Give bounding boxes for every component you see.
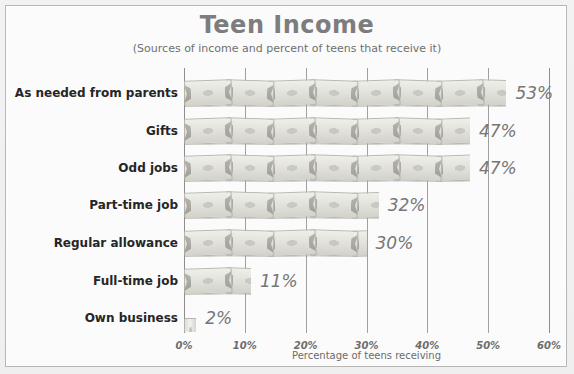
bar [184, 191, 379, 219]
dollar-bill-icon [268, 191, 317, 219]
bar [184, 79, 506, 107]
x-axis-title: Percentage of teens receiving [184, 350, 549, 361]
dollar-bill-icon [226, 79, 275, 106]
value-label: 2% [205, 308, 232, 328]
dollar-bill-icon [184, 117, 232, 145]
dollar-bill-icon [184, 318, 196, 332]
dollar-bill-icon [352, 117, 401, 145]
category-label: Regular allowance [0, 236, 178, 250]
value-label: 11% [260, 271, 298, 291]
dollar-bill-icon [184, 267, 232, 295]
bar [184, 267, 251, 295]
value-label: 32% [388, 195, 426, 215]
dollar-bill-icon [226, 117, 275, 144]
dollar-bill-icon [184, 154, 232, 182]
category-label: Own business [0, 311, 178, 325]
bar [184, 229, 367, 257]
dollar-bill-icon [184, 229, 232, 257]
dollar-bill-icon [352, 154, 401, 182]
dollar-bill-icon [394, 154, 443, 181]
dollar-bill-icon [226, 229, 275, 256]
category-label: Full-time job [0, 274, 178, 288]
dollar-bill-icon [184, 79, 232, 107]
category-label: Odd jobs [0, 161, 178, 175]
gridline-50pct [488, 68, 489, 333]
bar [184, 117, 470, 145]
value-label: 47% [479, 121, 517, 141]
dollar-bill-icon [226, 154, 275, 181]
dollar-bill-icon [310, 117, 359, 144]
dollar-bill-icon [268, 229, 317, 257]
dollar-bill-icon [268, 154, 317, 182]
bar [184, 304, 196, 332]
value-label: 47% [479, 158, 517, 178]
dollar-bill-icon [226, 191, 275, 218]
value-label: 53% [515, 83, 553, 103]
value-label: 30% [376, 233, 414, 253]
category-label: Part-time job [0, 198, 178, 212]
dollar-bill-icon [310, 79, 359, 106]
dollar-bill-icon [268, 79, 317, 107]
dollar-bill-icon [436, 79, 485, 107]
dollar-bill-icon [310, 191, 359, 218]
category-label: As needed from parents [0, 86, 178, 100]
category-label: Gifts [0, 124, 178, 138]
dollar-bill-icon [352, 79, 401, 107]
chart-title: Teen Income [0, 11, 574, 39]
chart-subtitle: (Sources of income and percent of teens … [0, 42, 574, 55]
dollar-bill-icon [394, 117, 443, 144]
plot-area: 0%10%20%30%40%50%60%53%47%47%32%30%11%2% [184, 68, 549, 333]
bar [184, 154, 470, 182]
dollar-bill-icon [394, 79, 443, 106]
chart-screenshot: Teen Income (Sources of income and perce… [0, 0, 574, 374]
dollar-bill-icon [310, 229, 359, 256]
gridline-60pct [549, 68, 550, 333]
dollar-bill-icon [268, 117, 317, 145]
gridline-40pct [427, 68, 428, 333]
dollar-bill-icon [310, 154, 359, 181]
dollar-bill-icon [184, 191, 232, 219]
